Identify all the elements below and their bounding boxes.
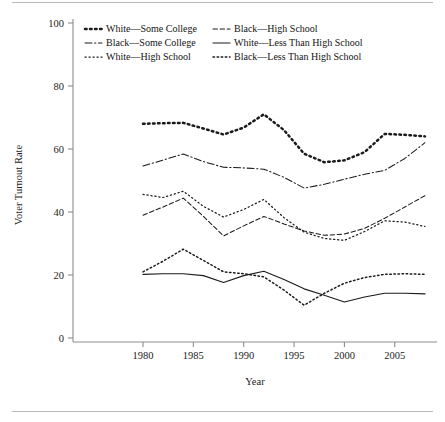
x-tick-label: 2000 (334, 350, 355, 361)
legend-label-5: Black—Less Than High School (234, 51, 362, 62)
series-line-5 (143, 249, 425, 305)
legend-label-4: White—High School (106, 51, 191, 62)
line-chart: 020406080100 198019851990199520002005 Wh… (0, 0, 445, 422)
y-tick-label: 40 (54, 207, 65, 218)
legend-label-1: Black—High School (234, 23, 318, 34)
y-tick-label: 60 (54, 144, 65, 155)
legend-label-0: White—Some College (106, 23, 197, 34)
y-tick-label: 20 (54, 270, 65, 281)
x-axis-title: Year (245, 376, 265, 387)
x-tick-label: 1990 (233, 350, 254, 361)
x-tick-label: 2005 (384, 350, 405, 361)
series-line-3 (143, 196, 425, 236)
series-line-4 (143, 271, 425, 302)
y-tick-label: 100 (48, 18, 64, 29)
x-tick-label: 1995 (284, 350, 305, 361)
y-tick-label: 80 (54, 81, 65, 92)
legend-label-3: White—Less Than High School (234, 37, 363, 48)
x-tick-label: 1980 (133, 350, 154, 361)
y-tick-label: 0 (59, 333, 64, 344)
series-layer (143, 114, 425, 305)
legend-label-2: Black—Some College (106, 37, 196, 48)
x-tick-label: 1985 (183, 350, 204, 361)
figure-container: 020406080100 198019851990199520002005 Wh… (0, 0, 445, 422)
chart-legend: White—Some CollegeBlack—High SchoolBlack… (85, 23, 363, 62)
y-axis-title: Voter Turnout Rate (13, 145, 24, 226)
x-axis: 198019851990199520002005 (73, 342, 437, 361)
series-line-1 (143, 143, 425, 188)
y-axis: 020406080100 (48, 18, 73, 344)
series-line-2 (143, 191, 425, 240)
